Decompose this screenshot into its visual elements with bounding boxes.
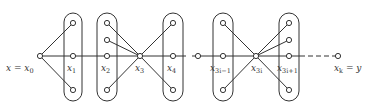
label-x1: x1	[67, 63, 76, 75]
vertex-x3i+1-upper	[286, 37, 291, 42]
vertex-x3	[137, 53, 142, 58]
vertex-xk	[335, 53, 340, 58]
edge	[256, 40, 289, 56]
vertex-x4-bottom	[170, 87, 175, 92]
vertex-labels: x = x0x1x2x3x4x3i−1x3ix3i+1xk = y	[6, 63, 362, 75]
label-x0: x = x0	[6, 63, 34, 75]
vertex-x3i-1-bottom	[220, 87, 225, 92]
vertex-x3i-1-top	[220, 20, 225, 25]
vertex-x3i+1	[286, 53, 291, 58]
edge	[140, 23, 173, 56]
vertex-x2-bottom	[104, 87, 109, 92]
vertex-x4	[170, 53, 175, 58]
path-diagram: x = x0x1x2x3x4x3i−1x3ix3i+1xk = y	[0, 0, 379, 111]
vertex-groups	[64, 13, 299, 101]
label-x3: x3	[135, 63, 144, 75]
vertex-x3i-1	[220, 53, 225, 58]
vertex-x2	[104, 53, 109, 58]
vertex-x0	[37, 53, 42, 58]
label-xk: xk = y	[334, 63, 362, 75]
vertex-x1-bottom	[70, 87, 75, 92]
label-x2: x2	[101, 63, 110, 75]
vertex-x3i+1-bottom	[286, 87, 291, 92]
vertex-x4-top	[170, 20, 175, 25]
edge	[140, 56, 173, 90]
vertex-x1-top	[70, 20, 75, 25]
diagram-svg: x = x0x1x2x3x4x3i−1x3ix3i+1xk = y	[0, 0, 379, 111]
edge	[40, 56, 73, 90]
vertex-x1	[70, 53, 75, 58]
vertex-x2-upper	[104, 37, 109, 42]
label-x3i+1: x3i+1	[277, 63, 298, 75]
edge	[223, 23, 256, 56]
edge	[107, 56, 140, 90]
vertex-mid	[195, 53, 200, 58]
edge	[40, 23, 73, 56]
edge	[107, 40, 140, 56]
edge	[256, 23, 289, 56]
label-x4: x4	[167, 63, 176, 75]
edge	[107, 23, 140, 56]
vertex-x2-top	[104, 20, 109, 25]
label-x3i: x3i	[251, 63, 262, 75]
vertex-x3i+1-top	[286, 20, 291, 25]
vertex-x3i	[253, 53, 258, 58]
